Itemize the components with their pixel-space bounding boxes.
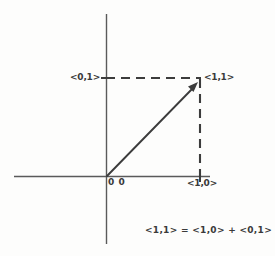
- figure-canvas: [0, 0, 275, 256]
- equation-annotation: <1,1> = <1,0> + <0,1>: [145, 225, 272, 236]
- origin-label: 0 0: [108, 177, 125, 188]
- resultant-vector-arrow: [107, 82, 198, 176]
- vector-addition-figure: <0,1> <1,1> 0 0 <1,0> <1,1> = <1,0> + <0…: [0, 0, 275, 256]
- x-intercept-label: <1,0>: [187, 178, 217, 189]
- y-intercept-label: <0,1>: [70, 72, 100, 83]
- vector-tip-label: <1,1>: [204, 72, 234, 83]
